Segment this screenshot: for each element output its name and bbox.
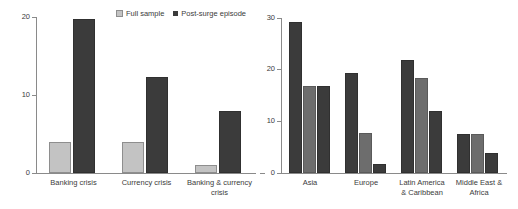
bar-group-middle-east-africa — [450, 0, 506, 173]
x-category-label: Currency crisis — [110, 178, 183, 188]
x-category-label: Banking crisis — [37, 178, 110, 188]
bar-banking-crisis — [457, 134, 470, 173]
chart-panel-right: Post-surge episode banking crisis Post-s… — [259, 0, 518, 209]
bar-currency-crisis — [359, 133, 372, 173]
y-tick-mark — [277, 173, 281, 174]
y-tick-mark — [277, 121, 281, 122]
y-tick-mark — [277, 18, 281, 19]
y-tick-label: 0 — [253, 169, 275, 177]
y-tick-mark — [32, 17, 36, 18]
x-axis-line-left — [36, 173, 256, 174]
bar-group-currency-crisis — [110, 0, 183, 173]
bar-banking-crisis — [289, 22, 302, 173]
bar-post-surge-episode — [219, 111, 241, 173]
bar-banking-and-currency-crisis — [373, 164, 386, 173]
bar-group-banking-crisis — [37, 0, 110, 173]
x-category-label: Middle East & Africa — [449, 178, 509, 197]
y-tick-label: 20 — [6, 13, 30, 21]
y-tick-label: 10 — [253, 117, 275, 125]
bar-group-asia — [282, 0, 338, 173]
bar-banking-and-currency-crisis — [485, 153, 498, 173]
bar-full-sample — [49, 142, 71, 173]
x-category-label: Asia — [282, 178, 338, 188]
bar-post-surge-episode — [73, 19, 95, 173]
y-tick-mark — [277, 69, 281, 70]
figure-container: Full sample Post-surge episode 20 10 0 B… — [0, 0, 518, 209]
y-tick-mark — [32, 173, 36, 174]
bar-banking-and-currency-crisis — [317, 86, 330, 173]
bar-currency-crisis — [303, 86, 316, 173]
x-axis-line-right — [281, 173, 507, 174]
bar-full-sample — [122, 142, 144, 173]
x-category-label: Latin America & Caribbean — [392, 178, 452, 197]
y-tick-mark — [32, 95, 36, 96]
y-tick-label: 0 — [6, 169, 30, 177]
x-category-label: Europe — [338, 178, 394, 188]
bar-currency-crisis — [471, 134, 484, 173]
bar-banking-and-currency-crisis — [429, 111, 442, 173]
bar-group-banking-and-currency-crisis — [183, 0, 256, 173]
bar-full-sample — [195, 165, 217, 173]
x-category-label: Banking & currency crisis — [180, 178, 259, 197]
bar-post-surge-episode — [146, 77, 168, 173]
bar-banking-crisis — [401, 60, 414, 173]
bar-group-latin-america-caribbean — [394, 0, 450, 173]
y-tick-label: 20 — [253, 65, 275, 73]
bar-group-europe — [338, 0, 394, 173]
y-tick-label: 30 — [253, 14, 275, 22]
bar-currency-crisis — [415, 78, 428, 173]
bar-banking-crisis — [345, 73, 358, 173]
chart-panel-left: Full sample Post-surge episode 20 10 0 B… — [0, 0, 259, 209]
y-tick-label: 10 — [6, 91, 30, 99]
